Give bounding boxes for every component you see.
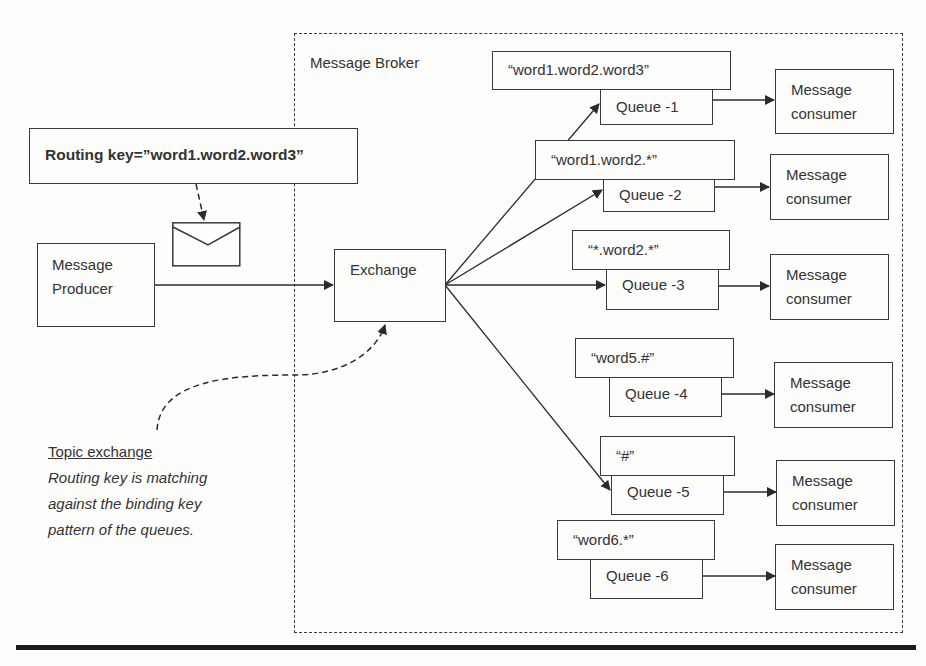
queue-label-1: Queue -1	[616, 95, 679, 119]
consumer-3-line1: Message	[786, 263, 847, 287]
consumer-5-line2: consumer	[792, 493, 858, 517]
binding-key-box-1: “word1.word2.word3”	[492, 51, 731, 90]
binding-key-box-4: “word5.#”	[575, 338, 734, 378]
binding-key-5: “#”	[616, 444, 634, 468]
routing-key-box: Routing key=”word1.word2.word3”	[29, 128, 358, 184]
producer-line2: Producer	[52, 277, 113, 301]
message-broker-label: Message Broker	[310, 51, 419, 75]
binding-key-box-3: “*.word2.*”	[572, 230, 730, 270]
binding-key-box-6: “word6.*”	[557, 520, 715, 560]
consumer-2-line2: consumer	[786, 187, 852, 211]
consumer-3-line2: consumer	[786, 287, 852, 311]
consumer-5-line1: Message	[792, 469, 853, 493]
note-line-1: Routing key is matching	[48, 466, 207, 490]
message-consumer-box-4: Message consumer	[774, 362, 893, 428]
bottom-divider	[16, 645, 916, 650]
consumer-4-line2: consumer	[790, 395, 856, 419]
binding-key-2: “word1.word2.*”	[551, 148, 657, 172]
envelope-icon	[172, 222, 241, 267]
note-title: Topic exchange	[48, 440, 152, 464]
queue-box-3: Queue -3	[606, 269, 719, 310]
note-line-3: pattern of the queues.	[48, 518, 194, 542]
consumer-4-line1: Message	[790, 371, 851, 395]
binding-key-3: “*.word2.*”	[588, 238, 659, 262]
consumer-1-line1: Message	[791, 78, 852, 102]
consumer-2-line1: Message	[786, 163, 847, 187]
queue-box-4: Queue -4	[609, 377, 722, 417]
message-consumer-box-6: Message consumer	[775, 544, 894, 610]
queue-box-5: Queue -5	[611, 475, 724, 515]
message-consumer-box-5: Message consumer	[776, 460, 895, 526]
message-consumer-box-1: Message consumer	[775, 69, 894, 134]
binding-key-1: “word1.word2.word3”	[508, 58, 649, 82]
consumer-6-line2: consumer	[791, 577, 857, 601]
routing-key-label: Routing key=”word1.word2.word3”	[45, 143, 304, 167]
message-consumer-box-2: Message consumer	[770, 154, 889, 220]
note-line-2: against the binding key	[48, 492, 201, 516]
queue-box-6: Queue -6	[590, 559, 703, 599]
queue-label-4: Queue -4	[625, 382, 688, 406]
message-consumer-box-3: Message consumer	[770, 254, 889, 320]
message-producer-box: Message Producer	[37, 243, 155, 327]
queue-label-5: Queue -5	[627, 480, 690, 504]
consumer-1-line2: consumer	[791, 102, 857, 126]
queue-box-1: Queue -1	[600, 89, 713, 125]
exchange-label: Exchange	[350, 258, 417, 282]
queue-box-2: Queue -2	[603, 179, 715, 212]
exchange-box: Exchange	[334, 249, 446, 322]
consumer-6-line1: Message	[791, 553, 852, 577]
binding-key-box-5: “#”	[600, 436, 735, 476]
queue-label-3: Queue -3	[622, 273, 685, 297]
producer-line1: Message	[52, 253, 113, 277]
binding-key-4: “word5.#”	[591, 346, 654, 370]
queue-label-2: Queue -2	[619, 183, 682, 207]
binding-key-box-2: “word1.word2.*”	[535, 140, 735, 180]
binding-key-6: “word6.*”	[573, 528, 634, 552]
queue-label-6: Queue -6	[606, 564, 669, 588]
